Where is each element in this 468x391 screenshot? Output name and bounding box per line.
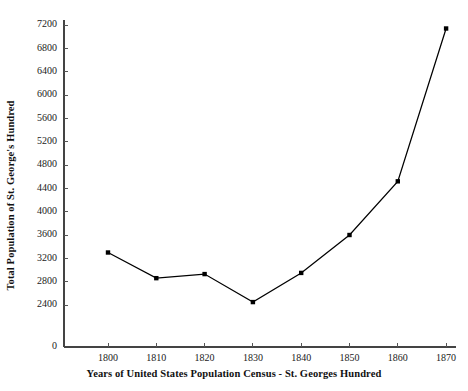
- y-tick-label: 6800: [37, 42, 57, 53]
- y-tick-label: 6400: [37, 65, 57, 76]
- data-point-marker: [396, 179, 400, 183]
- x-tick-label: 1830: [243, 352, 263, 363]
- x-tick-label: 1850: [340, 352, 360, 363]
- data-point-marker: [251, 300, 255, 304]
- plot-area: 0240028003200360040004400480052005600600…: [0, 0, 468, 391]
- y-tick-label: 2400: [37, 298, 57, 309]
- y-tick-label: 5200: [37, 135, 57, 146]
- y-tick-label: 6000: [37, 88, 57, 99]
- x-tick-label: 1820: [195, 352, 215, 363]
- x-tick-label: 1840: [291, 352, 311, 363]
- data-point-marker: [106, 250, 110, 254]
- y-tick-label: 5600: [37, 112, 57, 123]
- data-point-marker: [202, 272, 206, 276]
- y-tick-label: 3200: [37, 252, 57, 263]
- data-point-marker: [347, 233, 351, 237]
- data-point-marker: [299, 271, 303, 275]
- y-tick-label: 0: [52, 340, 57, 351]
- y-tick-label: 4800: [37, 158, 57, 169]
- x-tick-label: 1860: [388, 352, 408, 363]
- y-tick-label: 4000: [37, 205, 57, 216]
- data-point-marker: [154, 276, 158, 280]
- y-tick-label: 7200: [37, 18, 57, 29]
- x-tick-label: 1800: [98, 352, 118, 363]
- series-line: [108, 29, 446, 303]
- data-point-marker: [444, 26, 448, 30]
- y-tick-label: 2800: [37, 275, 57, 286]
- y-tick-label: 4400: [37, 182, 57, 193]
- x-axis-title: Years of United States Population Census…: [0, 368, 468, 379]
- y-tick-label: 3600: [37, 228, 57, 239]
- chart-container: Total Population of St. George's Hundred…: [0, 0, 468, 391]
- x-tick-label: 1810: [146, 352, 166, 363]
- x-tick-label: 1870: [436, 352, 456, 363]
